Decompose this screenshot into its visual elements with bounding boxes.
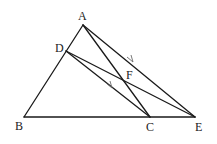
label-d: D [55, 41, 64, 55]
segment-ae [83, 25, 195, 117]
label-f: F [126, 68, 133, 82]
label-c: C [146, 120, 154, 134]
segment-de [66, 51, 195, 117]
label-b: B [15, 119, 23, 133]
parallel-mark-ae [127, 55, 133, 62]
segment-ab [24, 25, 83, 117]
segment-dc [66, 51, 150, 117]
label-a: A [78, 9, 87, 23]
geometry-diagram: A D B C E F [0, 0, 217, 144]
label-e: E [195, 120, 202, 134]
